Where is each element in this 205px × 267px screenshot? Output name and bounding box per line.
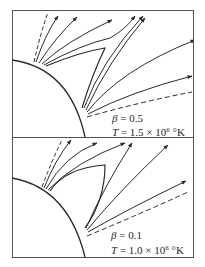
temperature-value: = 1.5 × 10 <box>118 126 166 138</box>
temperature-value: = 1.0 × 10 <box>117 244 165 256</box>
top-panel <box>12 12 195 137</box>
field-line <box>86 18 145 110</box>
bottom-panel <box>12 140 188 257</box>
top-temperature-label: T = 1.5 × 106 °K <box>112 124 185 139</box>
bottom-beta-label: β = 0.1 <box>111 229 142 242</box>
field-line <box>42 20 112 64</box>
field-line <box>48 143 125 190</box>
sun-surface-arc <box>12 60 85 137</box>
helmet-streamer-cusp <box>46 48 105 108</box>
beta-value: 0.5 <box>129 112 143 124</box>
field-line <box>44 16 135 65</box>
temperature-unit: °K <box>169 244 184 256</box>
beta-value: 0.1 <box>128 229 142 241</box>
temperature-unit: °K <box>170 126 185 138</box>
bottom-temperature-label: T = 1.0 × 106 °K <box>111 242 184 257</box>
field-line <box>36 16 58 62</box>
field-line <box>87 145 168 230</box>
